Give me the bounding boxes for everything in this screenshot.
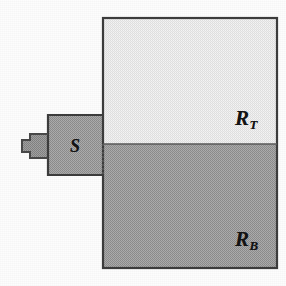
figure-root: RT RB S <box>0 0 286 286</box>
label-top-region-subscript: T <box>250 117 258 132</box>
label-bottom-region-base: R <box>235 227 249 251</box>
left-tab-fill <box>22 134 48 158</box>
label-top-region-base: R <box>235 106 249 130</box>
label-top-region: RT <box>235 108 257 131</box>
label-bottom-region-subscript: B <box>250 238 259 253</box>
label-bottom-region: RB <box>235 229 258 252</box>
label-left-block-base: S <box>70 136 80 156</box>
label-left-block: S <box>70 137 80 155</box>
